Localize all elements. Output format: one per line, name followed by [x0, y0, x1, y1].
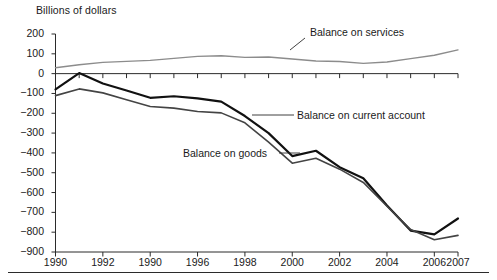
- x-axis-tick-label: 2007: [439, 256, 477, 268]
- series-layer: [56, 50, 459, 240]
- series-annotation-label: Balance on goods: [183, 147, 267, 159]
- x-axis-tick-label: 2004: [368, 256, 406, 268]
- x-axis-tick-label: 2002: [321, 256, 359, 268]
- series-annotation-label: Balance on current account: [297, 109, 425, 121]
- x-axis-tick-label: 1990: [37, 256, 75, 268]
- y-axis-tick-label: 0: [6, 67, 44, 79]
- chart-figure: Billions of dollars 2001000−100−200−300−…: [0, 0, 497, 280]
- x-axis-tick-label: 1998: [226, 256, 264, 268]
- series-line-balance-on-services: [56, 50, 459, 68]
- line-chart-canvas: [0, 0, 497, 280]
- y-axis-tick-label: 100: [6, 47, 44, 59]
- y-axis-tick-label: −300: [6, 126, 44, 138]
- y-axis-tick-label: −600: [6, 186, 44, 198]
- y-axis-tick-label: −500: [6, 166, 44, 178]
- y-axis-tick-label: −700: [6, 205, 44, 217]
- x-axis-tick-label: 1990: [131, 256, 169, 268]
- y-axis-tick-label: −100: [6, 86, 44, 98]
- y-axis-tick-label: 200: [6, 27, 44, 39]
- x-axis-tick-label: 1996: [179, 256, 217, 268]
- x-axis-tick-label: 2000: [273, 256, 311, 268]
- axis-layer: [52, 34, 459, 257]
- x-axis-tick-label: 1992: [84, 256, 122, 268]
- y-axis-tick-label: −800: [6, 225, 44, 237]
- series-annotation-label: Balance on services: [310, 26, 404, 38]
- footer-divider: [8, 272, 489, 273]
- y-axis-tick-label: −200: [6, 106, 44, 118]
- annotation-leader-line: [290, 38, 305, 50]
- y-axis-tick-label: −400: [6, 146, 44, 158]
